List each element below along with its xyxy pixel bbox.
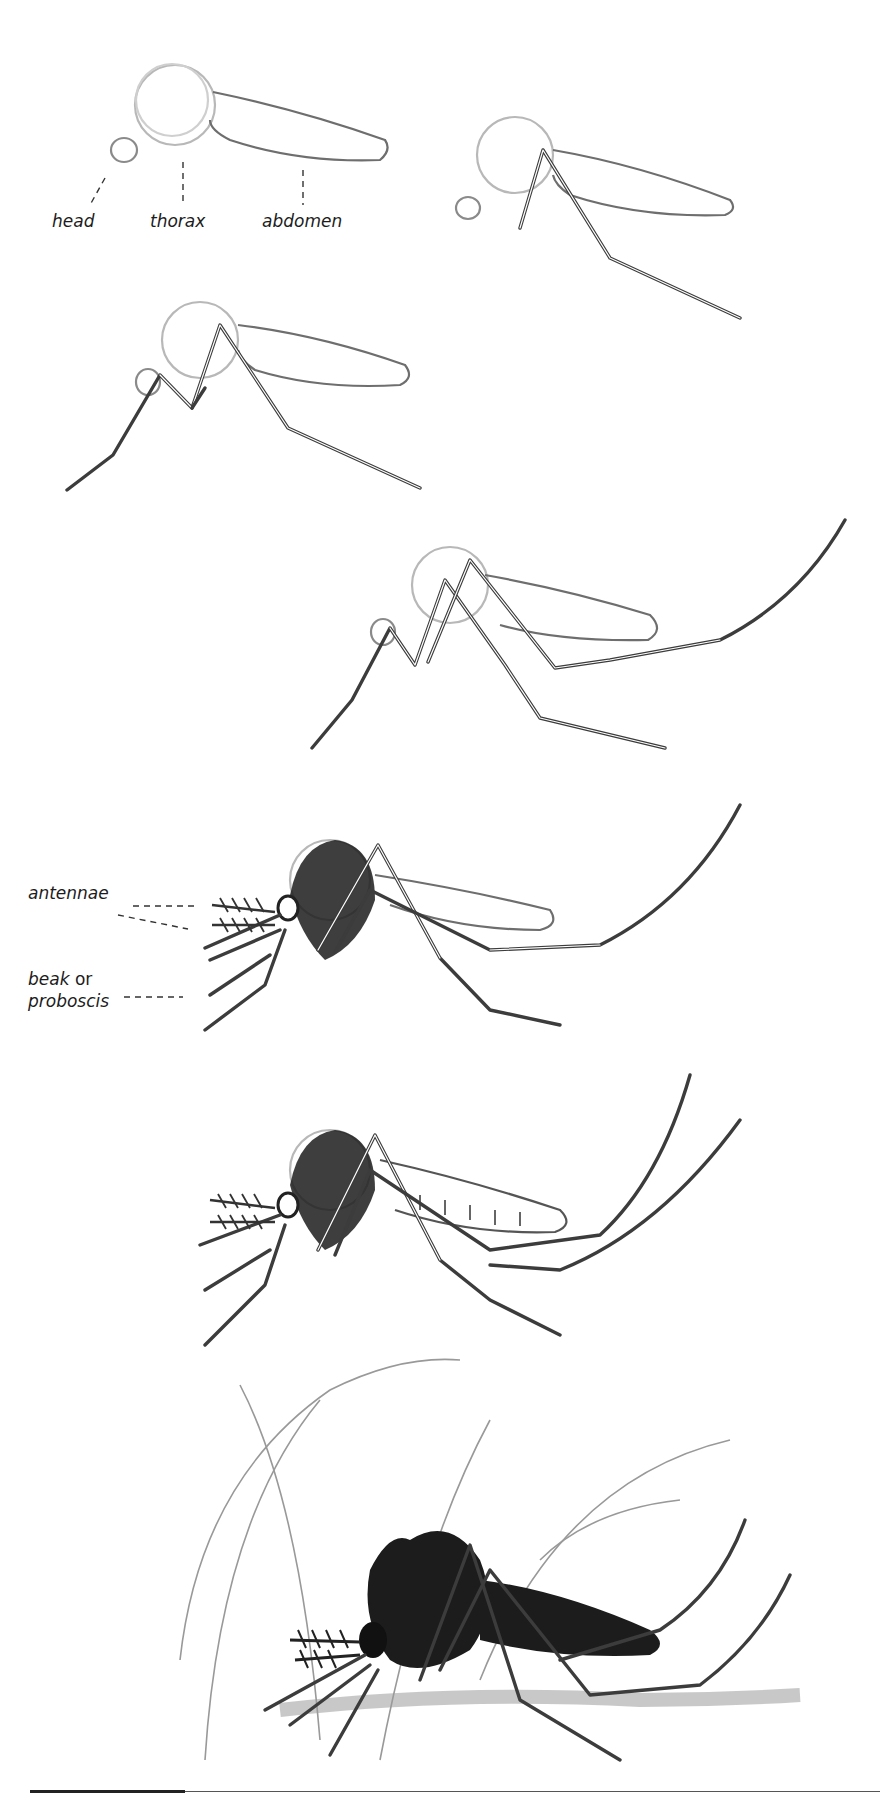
label-proboscis: proboscis bbox=[28, 991, 109, 1011]
label-beak-or-proboscis: beak or proboscis bbox=[28, 968, 109, 1012]
page-bottom-rule-accent bbox=[30, 1790, 185, 1793]
label-or: or bbox=[70, 969, 93, 989]
antennae-leader-lines bbox=[0, 0, 880, 1799]
label-beak: beak bbox=[28, 969, 70, 989]
drawing-tutorial-page: head thorax abdomen antennae beak or pro… bbox=[0, 0, 880, 1799]
